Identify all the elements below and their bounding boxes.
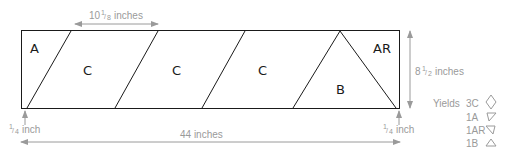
strip-height-unit: inches: [435, 66, 464, 77]
piece-label-ar: AR: [373, 41, 391, 56]
fraction-slash: /: [386, 127, 388, 134]
strip-length-dimension: 44 inches: [21, 129, 400, 142]
strip-height-whole: 8: [415, 66, 421, 77]
yield-qty-a: 1A: [466, 112, 479, 123]
strip-height-dimension: 8 1 / 2 inches: [410, 31, 464, 108]
margin-right-dimension: 1 / 4 inch: [383, 111, 414, 135]
piece-label-c3: C: [258, 63, 267, 78]
piece-label-c1: C: [83, 63, 92, 78]
strip-length-label: 44 inches: [180, 129, 223, 140]
triangle-down-right-icon: [486, 126, 495, 134]
triangle-down-left-icon: [487, 113, 496, 121]
margin-left-dimension: 1 / 4 inch: [9, 111, 40, 135]
piece-label-a: A: [30, 41, 39, 56]
yield-qty-c: 3C: [466, 98, 479, 109]
piece-label-c2: C: [172, 63, 181, 78]
cut-line-2: [115, 31, 158, 108]
yields-legend: Yields 3C 1A 1AR 1B: [433, 95, 496, 149]
diamond-icon: [486, 95, 496, 109]
strip-cutting-diagram: A C C C B AR 10 1 / 8 inches 8 1 / 2 inc…: [0, 0, 508, 163]
fraction-slash: /: [425, 69, 427, 76]
piece-width-dimension: 10 1 / 8 inches: [75, 9, 158, 24]
margin-right-den: 4: [389, 128, 393, 135]
piece-width-whole: 10: [89, 10, 101, 21]
strip-height-den: 2: [428, 70, 432, 77]
yield-qty-ar: 1AR: [466, 125, 485, 136]
piece-width-unit: inches: [114, 10, 143, 21]
margin-left-unit: inch: [22, 124, 40, 135]
yields-title: Yields: [433, 98, 460, 109]
margin-right-unit: inch: [396, 124, 414, 135]
triangle-up-icon: [486, 139, 496, 146]
piece-label-b: B: [336, 82, 345, 97]
piece-width-den: 8: [107, 14, 111, 21]
fraction-slash: /: [12, 127, 14, 134]
fraction-slash: /: [104, 13, 106, 20]
margin-left-den: 4: [15, 128, 19, 135]
cut-line-4: [293, 31, 340, 108]
yield-qty-b: 1B: [466, 138, 479, 149]
cut-line-3: [202, 31, 245, 108]
